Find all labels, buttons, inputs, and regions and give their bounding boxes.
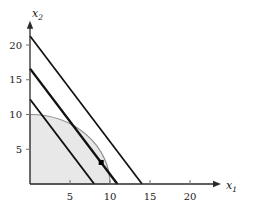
y-axis-tick-label: 5 (16, 144, 22, 155)
y-axis-tick-label: 15 (9, 74, 22, 85)
x-axis-tick-label: 20 (184, 191, 197, 202)
x-axis-tick-label: 5 (67, 191, 73, 202)
x-axis-tick-label: 10 (104, 191, 117, 202)
y-axis-tick-label: 20 (9, 40, 22, 51)
y-axis-tick-label: 10 (9, 109, 22, 120)
plot-svg: 51015205101520x1x2 (0, 0, 263, 214)
y-axis-arrowhead (27, 21, 33, 29)
x-axis-tick-label: 15 (144, 191, 157, 202)
x-axis-arrowhead (213, 181, 221, 187)
figure-canvas: 51015205101520x1x2 (0, 0, 263, 214)
y-axis-label: x2 (32, 7, 43, 22)
x-axis-label: x1 (226, 179, 237, 194)
optimal-point (99, 160, 104, 165)
